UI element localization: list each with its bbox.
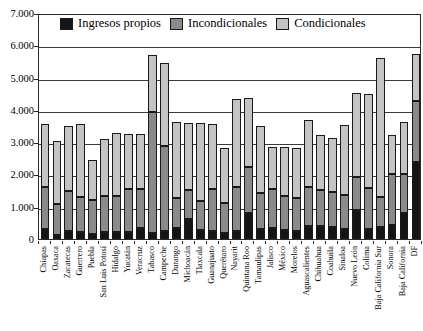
x-tick-mark: [313, 241, 314, 244]
bar-segment-incondicionales: [53, 204, 62, 236]
x-tick-label: Querétaro: [220, 246, 228, 331]
bar-segment-condicionales: [352, 93, 361, 177]
bar-segment-incondicionales: [76, 197, 85, 232]
bar-segment-condicionales: [124, 134, 133, 189]
bar-segment-ingresos-propios: [76, 232, 85, 239]
bar-segment-ingresos-propios: [112, 232, 121, 239]
bar-segment-condicionales: [100, 139, 109, 196]
x-tick-label-text: Chiapas: [40, 246, 48, 272]
x-tick-label-text: Nayarit: [231, 246, 239, 271]
x-tick-label: DF: [411, 246, 419, 331]
bar-segment-condicionales: [316, 135, 325, 191]
bar-segment-incondicionales: [352, 177, 361, 210]
bar-segment-ingresos-propios: [148, 233, 157, 239]
y-tick-label: 2.000: [10, 170, 34, 180]
bar-stack: [364, 94, 373, 239]
bar-segment-condicionales: [208, 124, 217, 189]
x-tick-label: Chiapas: [40, 246, 48, 331]
x-tick-label: Puebla: [88, 246, 96, 331]
x-tick-label: Baja California: [399, 246, 407, 331]
x-tick-label: Baja California Sur: [375, 246, 383, 331]
bar-segment-incondicionales: [196, 201, 205, 230]
x-tick-label: México: [279, 246, 287, 331]
bar-segment-ingresos-propios: [232, 231, 241, 239]
x-tick-label-text: Puebla: [88, 246, 96, 268]
bar-segment-condicionales: [136, 134, 145, 189]
bar-segment-ingresos-propios: [53, 235, 62, 239]
bar-segment-condicionales: [388, 135, 397, 174]
y-axis: 01.0002.0003.0004.0005.0006.0007.000: [0, 0, 38, 241]
bar-segment-incondicionales: [112, 196, 121, 232]
bar-stack: [244, 98, 253, 239]
bar-segment-incondicionales: [41, 187, 50, 230]
x-tick-label-text: Sinaloa: [339, 246, 347, 271]
x-tick-mark: [337, 241, 338, 244]
x-tick-label: Guanajuato: [208, 246, 216, 331]
bar-segment-incondicionales: [316, 190, 325, 226]
bar-stack: [256, 126, 265, 239]
x-tick-label-text: Sonora: [387, 246, 395, 269]
legend-item: Condicionales: [276, 17, 366, 30]
x-tick-mark: [361, 241, 362, 244]
y-tick-label: 7.000: [10, 9, 34, 19]
x-tick-label-text: Jalisco: [267, 246, 275, 268]
bar-segment-incondicionales: [328, 192, 337, 227]
bar-segment-condicionales: [220, 148, 229, 203]
y-tick-label: 3.000: [10, 138, 34, 148]
bar-stack: [400, 122, 409, 239]
bar-stack: [208, 124, 217, 239]
bar-segment-incondicionales: [124, 189, 133, 232]
x-tick-mark: [134, 241, 135, 244]
x-tick-mark: [349, 241, 350, 244]
bar-segment-ingresos-propios: [160, 231, 169, 239]
bar-stack: [148, 55, 157, 239]
bar-segment-ingresos-propios: [196, 230, 205, 239]
legend-item: Incondicionales: [170, 17, 267, 30]
x-tick-label: Sonora: [387, 246, 395, 331]
bar-segment-incondicionales: [280, 196, 289, 231]
bar-segment-ingresos-propios: [328, 227, 337, 239]
x-tick-label-text: Michoacán: [184, 246, 192, 282]
x-tick-label-text: Yucatán: [124, 246, 132, 272]
bar-segment-incondicionales: [88, 200, 97, 233]
bar-segment-ingresos-propios: [208, 231, 217, 239]
bar-stack: [376, 58, 385, 239]
bar-segment-condicionales: [76, 124, 85, 197]
legend-label: Condicionales: [294, 17, 366, 30]
bar-segment-incondicionales: [412, 101, 421, 161]
bar-stack: [112, 133, 121, 239]
x-tick-label-text: Aguascalientes: [303, 246, 311, 296]
bar-stack: [232, 99, 241, 239]
x-tick-label: Veracruz: [136, 246, 144, 331]
bar-segment-condicionales: [232, 99, 241, 187]
bar-stack: [41, 124, 50, 239]
x-tick-mark: [206, 241, 207, 244]
bar-segment-ingresos-propios: [292, 231, 301, 239]
x-tick-mark: [289, 241, 290, 244]
legend-swatch: [170, 18, 183, 30]
bar-segment-condicionales: [244, 98, 253, 167]
bar-segment-incondicionales: [208, 189, 217, 231]
bar-segment-ingresos-propios: [64, 231, 73, 239]
x-tick-label-text: Nuevo León: [351, 246, 359, 287]
x-tick-label-text: Campeche: [160, 246, 168, 281]
x-tick-mark: [277, 241, 278, 244]
bar-stack: [268, 147, 277, 239]
x-tick-mark: [182, 241, 183, 244]
bar-segment-incondicionales: [400, 174, 409, 213]
bar-segment-ingresos-propios: [41, 229, 50, 239]
bar-segment-condicionales: [256, 126, 265, 193]
bar-segment-ingresos-propios: [220, 233, 229, 239]
x-tick-label: Sinaloa: [339, 246, 347, 331]
bar-segment-condicionales: [400, 122, 409, 174]
bar-segment-incondicionales: [340, 195, 349, 229]
x-tick-label-text: Coahuila: [327, 246, 335, 276]
bar-segment-ingresos-propios: [316, 226, 325, 239]
y-tick-label: 1.000: [10, 203, 34, 213]
bar-stack: [136, 134, 145, 239]
x-tick-label: Aguascalientes: [303, 246, 311, 331]
x-tick-label-text: Guerrero: [76, 246, 84, 276]
x-axis: ChiapasOaxacaZacatecasGuerreroPueblaSan …: [38, 241, 421, 331]
y-tick-label: 0: [29, 235, 34, 245]
bar-segment-condicionales: [112, 133, 121, 196]
